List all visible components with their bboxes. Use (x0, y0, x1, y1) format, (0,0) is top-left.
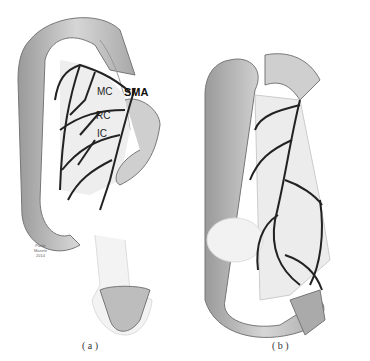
illustration (0, 0, 370, 361)
label-sma: SMA (124, 86, 148, 98)
label-mc: MC (97, 86, 113, 97)
caption-b: ( b ) (272, 340, 289, 351)
panel-b-colon (205, 54, 330, 338)
label-ic: IC (97, 128, 107, 139)
artist-credit: Paolo Masetti 2014 (34, 243, 47, 258)
panel-a-colon (18, 18, 160, 251)
caption-a: ( a ) (82, 340, 98, 351)
label-rc: RC (96, 110, 110, 121)
